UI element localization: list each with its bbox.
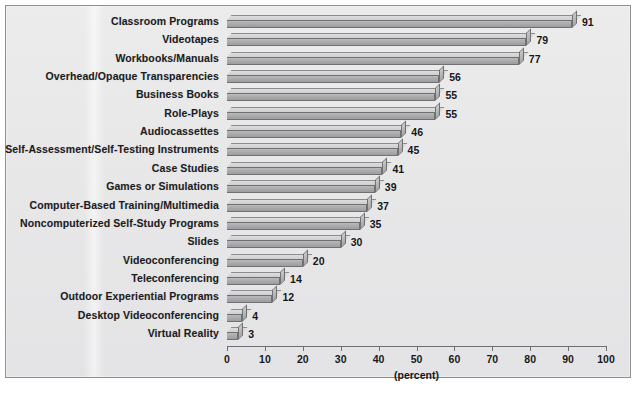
bar-front-face bbox=[227, 204, 367, 212]
bar-value-label: 55 bbox=[445, 108, 457, 121]
bar-category-label: Workbooks/Manuals bbox=[115, 52, 219, 65]
bar-side-face bbox=[341, 230, 346, 248]
bar-side-face bbox=[439, 65, 444, 83]
bar-side-face bbox=[375, 175, 380, 193]
x-axis-tick-label: 80 bbox=[524, 353, 536, 366]
chart-bar-row: Desktop Videoconferencing4 bbox=[6, 309, 632, 327]
chart-bar-row: Workbooks/Manuals77 bbox=[6, 52, 632, 70]
bar-category-label: Games or Simulations bbox=[106, 180, 219, 193]
bar-category-label: Computer-Based Training/Multimedia bbox=[29, 199, 219, 212]
bar-side-face bbox=[398, 139, 403, 157]
bar-3d bbox=[227, 180, 375, 198]
x-axis-tick bbox=[492, 346, 493, 351]
bar-category-label: Noncomputerized Self-Study Programs bbox=[20, 217, 219, 230]
bar-3d bbox=[227, 88, 435, 106]
x-axis-tick-label: 70 bbox=[486, 353, 498, 366]
bar-value-label: 45 bbox=[408, 144, 420, 157]
bar-value-label: 35 bbox=[370, 218, 382, 231]
bar-side-face bbox=[401, 120, 406, 138]
x-axis-tick bbox=[303, 346, 304, 351]
bar-value-label: 56 bbox=[449, 71, 461, 84]
chart-bar-row: Noncomputerized Self-Study Programs35 bbox=[6, 217, 632, 235]
x-axis-tick-label: 0 bbox=[224, 353, 230, 366]
bar-3d bbox=[227, 327, 238, 345]
bar-category-label: Audiocassettes bbox=[140, 125, 219, 138]
bar-side-face bbox=[519, 47, 524, 65]
chart-bar-row: Outdoor Experiential Programs12 bbox=[6, 290, 632, 308]
x-axis-tick-label: 30 bbox=[335, 353, 347, 366]
chart-bar-row: Case Studies41 bbox=[6, 162, 632, 180]
bar-front-face bbox=[227, 314, 242, 322]
bar-value-label: 3 bbox=[248, 328, 254, 341]
bar-side-face bbox=[435, 102, 440, 120]
bar-front-face bbox=[227, 259, 303, 267]
bar-side-face bbox=[360, 212, 365, 230]
chart-bar-row: Videoconferencing20 bbox=[6, 254, 632, 272]
bar-3d bbox=[227, 199, 367, 217]
chart-bar-row: Business Books55 bbox=[6, 88, 632, 106]
bar-front-face bbox=[227, 240, 341, 248]
x-axis-tick-label: 10 bbox=[259, 353, 271, 366]
chart-bar-row: Games or Simulations39 bbox=[6, 180, 632, 198]
bar-3d bbox=[227, 162, 382, 180]
x-axis-tick bbox=[227, 346, 228, 351]
x-axis-tick-label: 60 bbox=[449, 353, 461, 366]
bar-3d bbox=[227, 70, 439, 88]
bar-3d bbox=[227, 290, 272, 308]
chart-bar-row: Virtual Reality3 bbox=[6, 327, 632, 345]
bar-side-face bbox=[526, 29, 531, 47]
bar-side-face bbox=[280, 267, 285, 285]
x-axis-tick-label: 40 bbox=[373, 353, 385, 366]
bar-front-face bbox=[227, 295, 272, 303]
bar-category-label: Business Books bbox=[136, 88, 219, 101]
x-axis-tick bbox=[530, 346, 531, 351]
bar-3d bbox=[227, 52, 519, 70]
bar-value-label: 46 bbox=[411, 126, 423, 139]
bar-value-label: 30 bbox=[351, 236, 363, 249]
bar-category-label: Case Studies bbox=[152, 162, 219, 175]
bar-front-face bbox=[227, 38, 526, 46]
bar-category-label: Role-Plays bbox=[164, 107, 219, 120]
bar-value-label: 4 bbox=[252, 310, 258, 323]
x-axis-tick-label: 100 bbox=[597, 353, 615, 366]
screenshot-root: Classroom Programs91Videotapes79Workbook… bbox=[0, 0, 638, 400]
bar-value-label: 91 bbox=[582, 16, 594, 29]
bar-front-face bbox=[227, 277, 280, 285]
bar-value-label: 55 bbox=[445, 89, 457, 102]
x-axis-title: (percent) bbox=[227, 369, 606, 382]
chart-bar-row: Overhead/Opaque Transparencies56 bbox=[6, 70, 632, 88]
x-axis-tick bbox=[341, 346, 342, 351]
bar-front-face bbox=[227, 332, 238, 340]
chart-bar-row: Slides30 bbox=[6, 235, 632, 253]
bar-category-label: Overhead/Opaque Transparencies bbox=[46, 70, 219, 83]
bar-3d bbox=[227, 254, 303, 272]
bar-front-face bbox=[227, 185, 375, 193]
bar-side-face bbox=[272, 285, 277, 303]
bar-3d bbox=[227, 33, 526, 51]
x-axis-tick bbox=[568, 346, 569, 351]
bar-front-face bbox=[227, 75, 439, 83]
x-axis-tick bbox=[454, 346, 455, 351]
bar-category-label: Slides bbox=[187, 235, 219, 248]
bar-3d bbox=[227, 235, 341, 253]
bar-side-face bbox=[572, 10, 577, 28]
chart-bar-row: Classroom Programs91 bbox=[6, 15, 632, 33]
bar-front-face bbox=[227, 130, 401, 138]
chart-bar-row: Audiocassettes46 bbox=[6, 125, 632, 143]
bar-3d bbox=[227, 15, 572, 33]
bar-category-label: Desktop Videoconferencing bbox=[78, 309, 219, 322]
bar-side-face bbox=[238, 322, 243, 340]
bar-front-face bbox=[227, 167, 382, 175]
x-axis-tick-label: 50 bbox=[411, 353, 423, 366]
x-axis-tick bbox=[379, 346, 380, 351]
bar-side-face bbox=[242, 304, 247, 322]
x-axis-tick-label: 20 bbox=[297, 353, 309, 366]
chart-figure-frame: Classroom Programs91Videotapes79Workbook… bbox=[5, 5, 631, 378]
x-axis-tick bbox=[417, 346, 418, 351]
bar-front-face bbox=[227, 112, 435, 120]
bar-value-label: 20 bbox=[313, 255, 325, 268]
bar-3d bbox=[227, 125, 401, 143]
bar-category-label: Videoconferencing bbox=[123, 254, 219, 267]
bar-side-face bbox=[382, 157, 387, 175]
bar-front-face bbox=[227, 148, 398, 156]
